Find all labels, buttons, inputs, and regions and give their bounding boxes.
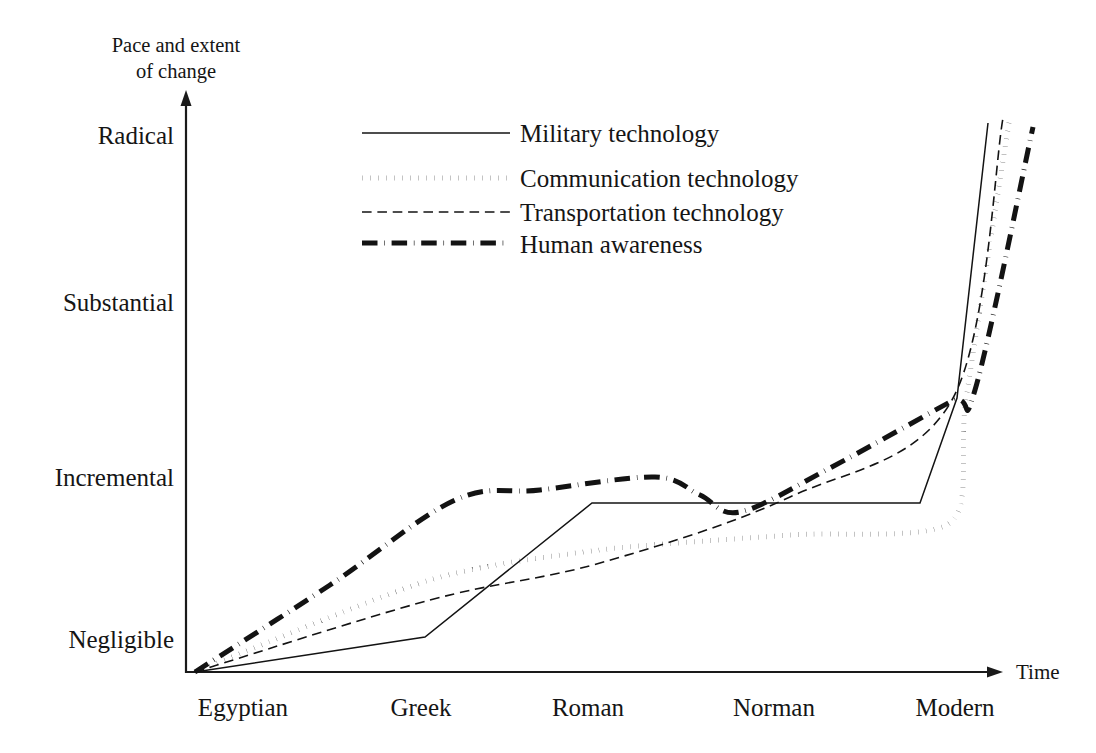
x-tick-label-greek: Greek [390,694,452,721]
legend-label-transportation: Transportation technology [520,199,784,226]
line-chart-canvas: Pace and extent of change Time Radical S… [0,0,1096,753]
y-tick-label-radical: Radical [98,122,174,149]
legend-label-human-awareness: Human awareness [520,231,703,258]
y-axis-arrowhead [181,90,192,106]
x-tick-label-roman: Roman [552,694,625,721]
x-tick-label-norman: Norman [733,694,815,721]
x-axis-title: Time [1016,660,1060,684]
y-axis-title-line2: of change [136,60,216,83]
legend-label-communication: Communication technology [520,165,799,192]
y-tick-label-incremental: Incremental [55,464,174,491]
legend-swatch-layer [362,133,510,243]
legend-label-military: Military technology [520,120,720,147]
y-axis-title-line1: Pace and extent [112,34,241,56]
y-tick-label-substantial: Substantial [63,289,174,316]
x-tick-label-modern: Modern [915,694,995,721]
y-tick-label-negligible: Negligible [68,626,174,653]
x-axis-arrowhead [987,667,1003,678]
x-tick-label-egyptian: Egyptian [198,694,289,721]
chart-figure: Pace and extent of change Time Radical S… [0,0,1096,753]
